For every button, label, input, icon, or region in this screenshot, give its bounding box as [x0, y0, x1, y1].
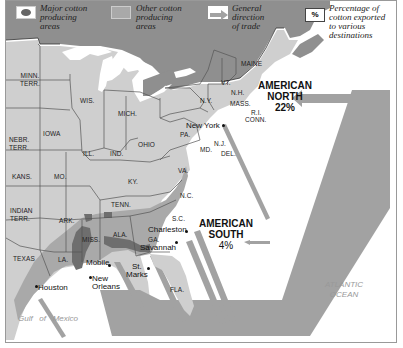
state-label-nj: N.J. [214, 140, 226, 147]
state-label-ala: ALA. [113, 231, 128, 238]
major-cotton-swatch [16, 6, 36, 19]
city-label-st-marks: St.Marks [126, 263, 148, 279]
state-label-indian-terr: INDIANTERR. [10, 207, 33, 223]
arrow-right-icon [208, 6, 228, 19]
state-label-iowa: IOWA [43, 130, 61, 137]
state-label-wis: WIS. [80, 97, 94, 104]
legend-other-label: Other cotton producing areas [136, 4, 182, 31]
state-label-vt: VT. [221, 79, 231, 86]
destination-american-north: AMERICAN NORTH 22% [252, 80, 318, 113]
destination-american-south: AMERICAN SOUTH 4% [197, 218, 255, 251]
state-label-texas: TEXAS [13, 255, 35, 262]
other-cotton-swatch [111, 6, 131, 19]
state-label-mich: MICH. [118, 110, 137, 117]
state-label-mass: MASS. [230, 100, 251, 107]
state-label-ark: ARK. [59, 217, 75, 224]
state-label-minn: MINN.TERR. [20, 72, 40, 88]
state-label-ind: IND. [110, 150, 123, 157]
state-label-mo: MO. [54, 173, 67, 180]
state-label-tenn: TENN. [111, 201, 131, 208]
state-label-ga: GA. [148, 236, 160, 243]
state-label-pa: PA. [180, 131, 190, 138]
legend-major-label: Major cotton producing areas [40, 4, 87, 31]
state-label-ky: KY. [128, 178, 138, 185]
state-label-la: LA. [58, 256, 68, 263]
state-label-miss: MISS. [82, 236, 100, 243]
gulf-of-mexico-label: Gulf of Mexico [18, 314, 78, 324]
city-label-charleston: Charleston [148, 225, 187, 234]
state-label-sc: S.C. [172, 215, 185, 222]
atlantic-ocean-label: ATLANTIC OCEAN [325, 280, 363, 300]
state-label-ny: N.Y. [200, 97, 212, 104]
percent-south: 4% [197, 240, 255, 251]
state-label-md: MD. [200, 146, 212, 153]
legend-trade-label: General direction of trade [232, 4, 264, 31]
legend-percent-label: Percentage of cotton exported to various… [329, 4, 385, 40]
city-dot-new-york [222, 124, 225, 127]
state-label-maine: MAINE [241, 60, 262, 67]
state-label-ohio: OHIO [138, 141, 155, 148]
state-label-va: VA. [178, 167, 188, 174]
state-label-ill: ILL. [83, 150, 94, 157]
city-label-new-york: New York [186, 121, 220, 130]
percent-north: 22% [252, 102, 318, 113]
city-label-new-orleans: NewOrleans [92, 275, 120, 291]
state-label-del: DEL. [221, 150, 236, 157]
percent-icon: % [305, 8, 325, 22]
city-label-savannah: Savannah [140, 243, 176, 252]
state-label-fla: FLA. [170, 286, 184, 293]
city-label-mobile: Mobile [86, 258, 110, 267]
city-label-houston: Houston [38, 283, 68, 292]
state-label-kans: KANS. [12, 173, 32, 180]
state-label-nebr: NEBR.TERR. [9, 136, 29, 152]
state-label-nh: N.H. [231, 89, 244, 96]
state-label-conn: CONN. [245, 116, 266, 123]
state-label-nc: N.C. [180, 192, 193, 199]
